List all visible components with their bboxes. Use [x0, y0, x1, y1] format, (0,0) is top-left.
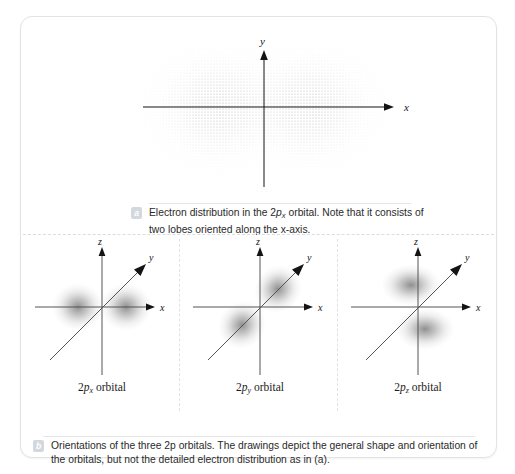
y-axis-label: y — [148, 252, 154, 263]
z-axis-label: z — [97, 236, 102, 247]
orbital-label-2pz: 2pz orbital — [339, 381, 497, 395]
caption-b-line1: Orientations of the three 2p orbitals. T… — [51, 440, 415, 451]
orbital-diagram-2pz: x y z — [339, 235, 497, 385]
orbital-cell-2px: x y z 2px orbital — [23, 235, 181, 420]
orbital-cell-2py: x y z 2py orbital — [181, 235, 339, 420]
label-post: orbital — [409, 381, 442, 393]
panel-a-electron-distribution: x y a Electron distribution in the 2px o… — [21, 17, 496, 235]
panel-b-orbital-orientations: x y z 2px orbital — [21, 235, 496, 435]
panel-b-badge: b — [33, 440, 44, 452]
label-post: orbital — [93, 381, 126, 393]
caption-a-line1-post: orbital. Note that — [286, 207, 364, 218]
caption-b-text: Orientations of the three 2p orbitals. T… — [51, 439, 488, 466]
x-axis-label: x — [403, 101, 409, 113]
x-axis-label: x — [475, 302, 481, 313]
orbital-label-2px: 2px orbital — [23, 381, 181, 395]
x-axis-label: x — [317, 302, 323, 313]
z-axis-label: z — [255, 236, 260, 247]
label-post: orbital — [251, 381, 284, 393]
y-axis — [208, 264, 304, 360]
orbital-label-2py: 2py orbital — [181, 381, 339, 395]
panel-a-badge: a — [131, 207, 142, 219]
caption-a: a Electron distribution in the 2px orbit… — [131, 206, 431, 236]
orbital-cell-2pz: x y z 2pz orbital — [339, 235, 497, 420]
caption-b: b Orientations of the three 2p orbitals.… — [33, 439, 488, 466]
scatter-svg: x y — [21, 21, 496, 191]
caption-b-rule — [43, 436, 475, 437]
orbital-diagram-2px: x y z — [23, 235, 181, 385]
caption-a-line1-pre: Electron distribution in the 2 — [149, 207, 276, 218]
y-axis-label: y — [464, 252, 470, 263]
y-axis-label: y — [306, 252, 312, 263]
scatter-plot-2px: x y — [21, 21, 496, 191]
figure-card: x y a Electron distribution in the 2px o… — [20, 16, 497, 458]
x-axis-label: x — [159, 302, 165, 313]
caption-a-rule — [149, 203, 411, 204]
orbital-diagram-2py: x y z — [181, 235, 339, 385]
caption-a-text: Electron distribution in the 2px orbital… — [149, 206, 431, 236]
electron-cloud-right-lobe — [211, 21, 411, 191]
z-axis-label: z — [413, 236, 418, 247]
y-axis-label: y — [259, 35, 265, 47]
